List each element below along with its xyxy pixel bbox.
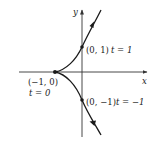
parametric-curve-diagram: y x (0, 1) t = 1 (−1, 0) t = 0 (0, −1) t… (0, 0, 158, 147)
label-cusp-param: t = 0 (29, 88, 51, 98)
point-cusp (53, 70, 57, 74)
label-cusp-coord: (−1, 0) (28, 77, 58, 87)
direction-arrow-upper-icon (90, 22, 95, 29)
point-upper (80, 45, 84, 49)
label-upper-coord: (0, 1) (86, 45, 109, 55)
label-lower-param: t = −1 (116, 97, 144, 107)
label-lower-coord: (0, −1) (86, 97, 116, 107)
label-upper-param: t = 1 (111, 45, 132, 55)
y-axis-label: y (72, 7, 78, 17)
curve-upper-branch (55, 10, 101, 72)
x-axis-label: x (142, 76, 147, 86)
point-lower (80, 98, 84, 102)
